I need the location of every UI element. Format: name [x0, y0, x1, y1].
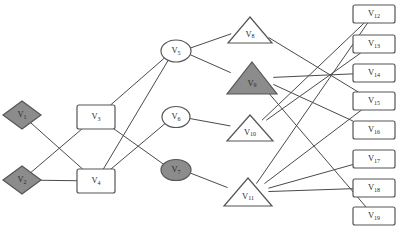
node-v19[interactable]: V19: [353, 207, 395, 225]
edge-v6-v10: [190, 119, 231, 126]
node-shape-diamond: [3, 101, 41, 129]
edge-v11-v12: [256, 23, 367, 184]
edge-v1-v4: [31, 123, 83, 169]
edge-v9-v14: [273, 74, 353, 78]
node-shape-rectangle: [353, 64, 395, 82]
edge-v10-v12: [262, 23, 364, 120]
node-shape-rectangle: [353, 150, 395, 168]
node-shape-triangle: [228, 17, 272, 43]
node-shape-triangle: [227, 62, 277, 94]
node-v8[interactable]: V8: [228, 17, 272, 43]
node-shape-rectangle: [353, 35, 395, 53]
edge-v2-v3: [31, 129, 82, 173]
node-shape-ellipse: [162, 107, 190, 128]
node-shape-rectangle: [77, 169, 115, 193]
node-shape-ellipse: [161, 160, 191, 181]
node-v15[interactable]: V15: [353, 92, 395, 110]
edge-v3-v7: [114, 129, 163, 164]
node-v14[interactable]: V14: [353, 64, 395, 82]
node-shape-rectangle: [77, 105, 115, 129]
node-v1[interactable]: V1: [3, 101, 41, 129]
node-shape-rectangle: [353, 207, 395, 225]
node-shape-rectangle: [353, 179, 395, 197]
edge-v3-v5: [111, 58, 165, 105]
node-v12[interactable]: V12: [353, 5, 395, 23]
edge-v10-v13: [266, 53, 360, 120]
edge-v5-v8: [190, 34, 231, 48]
edge-v4-v6: [111, 124, 165, 169]
node-shape-ellipse: [161, 40, 191, 62]
node-v11[interactable]: V11: [224, 178, 272, 206]
edge-v11-v18: [268, 189, 353, 192]
node-layer: V1V2V3V4V5V6V7V8V9V10V11V12V13V14V15V16V…: [3, 5, 395, 225]
node-shape-rectangle: [353, 121, 395, 139]
node-shape-rectangle: [353, 5, 395, 23]
node-shape-triangle: [227, 115, 273, 141]
node-shape-rectangle: [353, 92, 395, 110]
node-shape-diamond: [3, 166, 41, 194]
node-v5[interactable]: V5: [161, 40, 191, 62]
node-v17[interactable]: V17: [353, 150, 395, 168]
edge-v5-v9: [190, 55, 231, 73]
node-v16[interactable]: V16: [353, 121, 395, 139]
node-v18[interactable]: V18: [353, 179, 395, 197]
node-graph-diagram: V1V2V3V4V5V6V7V8V9V10V11V12V13V14V15V16V…: [0, 0, 403, 233]
node-v7[interactable]: V7: [161, 160, 191, 181]
edge-v9-v16: [273, 84, 353, 121]
node-v4[interactable]: V4: [77, 169, 115, 193]
node-shape-triangle: [224, 178, 272, 206]
node-v13[interactable]: V13: [353, 35, 395, 53]
edge-v7-v11: [190, 173, 227, 188]
edge-v11-v15: [264, 110, 361, 184]
node-v9[interactable]: V9: [227, 62, 277, 94]
node-v2[interactable]: V2: [3, 166, 41, 194]
node-v6[interactable]: V6: [162, 107, 190, 128]
node-v10[interactable]: V10: [227, 115, 273, 141]
node-v3[interactable]: V3: [77, 105, 115, 129]
